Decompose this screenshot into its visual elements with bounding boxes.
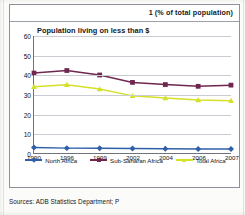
- legend-item[interactable]: Total Africa: [176, 157, 226, 164]
- gridline: [34, 75, 231, 76]
- page-edge-right: [243, 0, 244, 215]
- y-axis-tick-label: 30: [24, 92, 31, 99]
- page-edge-left: [3, 0, 4, 215]
- gridline: [34, 115, 231, 116]
- chart-legend: North AfricaSub-Saharan AfricaTotal Afri…: [10, 153, 241, 167]
- data-point-marker: [162, 146, 168, 152]
- header-note: 1 (% of total population): [149, 8, 233, 17]
- data-point-marker: [228, 146, 234, 152]
- data-point-marker: [31, 145, 37, 151]
- source-note: Sources: ADB Statistics Department; P: [9, 198, 119, 205]
- data-point-marker: [196, 84, 201, 89]
- y-axis-tick-label: 40: [24, 72, 31, 79]
- data-point-marker: [64, 145, 70, 151]
- legend-swatch-icon: [176, 158, 193, 162]
- y-axis-tick-label: 10: [24, 131, 31, 138]
- figure-header-strip: 1 (% of total population): [10, 5, 239, 22]
- gridline: [34, 56, 231, 57]
- legend-item[interactable]: Sub-Saharan Africa: [90, 157, 163, 164]
- data-point-marker: [130, 146, 136, 152]
- series-line: [34, 85, 231, 101]
- gridline: [34, 134, 231, 135]
- y-axis-tick-label: 50: [24, 52, 31, 59]
- legend-swatch-icon: [25, 158, 42, 162]
- gridline: [34, 36, 231, 37]
- legend-label: Total Africa: [196, 157, 226, 164]
- y-axis-tick-label: 60: [24, 33, 31, 40]
- y-axis-tick-label: 20: [24, 111, 31, 118]
- legend-marker: [31, 157, 37, 163]
- data-point-marker: [163, 82, 168, 87]
- legend-swatch-icon: [90, 158, 107, 162]
- scanned-page: 1 (% of total population) Population liv…: [0, 0, 245, 215]
- gridline: [34, 95, 231, 96]
- data-point-marker: [97, 145, 103, 151]
- data-point-marker: [229, 83, 234, 88]
- plot-area: 6050403020100199019961999200220042006200…: [33, 36, 231, 154]
- figure-box: 1 (% of total population) Population liv…: [9, 4, 240, 188]
- data-point-marker: [130, 80, 135, 85]
- legend-marker: [182, 158, 186, 162]
- data-point-marker: [195, 146, 201, 152]
- legend-label: North Africa: [45, 157, 77, 164]
- legend-marker: [97, 158, 101, 162]
- data-point-marker: [64, 68, 69, 73]
- legend-label: Sub-Saharan Africa: [110, 157, 163, 164]
- legend-item[interactable]: North Africa: [25, 157, 77, 164]
